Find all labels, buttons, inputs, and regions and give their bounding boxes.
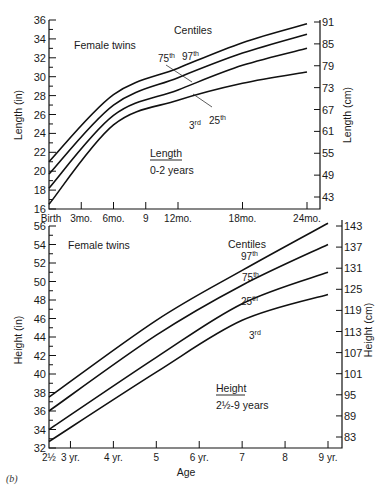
y-right-tick-label: 95 — [344, 389, 356, 401]
y-tick-label: 26 — [34, 109, 46, 121]
y-right-tick-label: 125 — [344, 283, 362, 295]
y-tick-label: 42 — [34, 350, 46, 362]
top-subtitle: Female twins — [74, 39, 136, 51]
y-right-tick-label: 55 — [322, 147, 334, 159]
x-tick-label: 2½ — [42, 452, 57, 463]
bottom-left-y-axis: 32343638404244464850525456 — [34, 220, 56, 454]
x-tick-label: 18mo. — [229, 213, 257, 224]
y-tick-label: 20 — [34, 165, 46, 177]
y-tick-label: 18 — [34, 184, 46, 196]
y-right-tick-label: 137 — [344, 241, 362, 253]
x-tick-label: 9 yr. — [319, 452, 338, 463]
bottom-y-axis-title-right: Height (cm) — [362, 303, 374, 357]
bottom-centile-curves — [49, 223, 328, 441]
y-tick-label: 34 — [34, 424, 46, 436]
y-right-tick-label: 91 — [322, 16, 334, 28]
growth-charts: 1618202224262830323436 43495561677379859… — [0, 0, 386, 493]
top-label-75: 75th — [158, 52, 175, 64]
y-tick-label: 38 — [34, 387, 46, 399]
y-right-tick-label: 73 — [322, 82, 334, 94]
x-tick-label: 8 — [282, 452, 288, 463]
bottom-x-axis: 2½3 yr.4 yr.56 yr.789 yr. — [42, 441, 337, 463]
x-tick-label: 9 — [143, 213, 149, 224]
y-tick-label: 46 — [34, 313, 46, 325]
y-right-tick-label: 107 — [344, 347, 362, 359]
y-right-tick-label: 67 — [322, 104, 334, 116]
x-tick-label: 6mo. — [102, 213, 124, 224]
figure-label: (b) — [6, 473, 18, 484]
bottom-y-axis-title: Height (in) — [12, 316, 24, 364]
y-tick-label: 50 — [34, 276, 46, 288]
bottom-legend-title: Centiles — [228, 238, 266, 250]
bottom-label-3: 3rd — [249, 329, 261, 341]
y-right-tick-label: 101 — [344, 368, 362, 380]
bottom-subtitle: Female twins — [68, 239, 130, 251]
y-right-tick-label: 61 — [322, 125, 334, 137]
y-right-tick-label: 131 — [344, 262, 362, 274]
y-tick-label: 52 — [34, 257, 46, 269]
top-right-y-axis: 434955616773798591 — [314, 16, 334, 203]
y-right-tick-label: 143 — [344, 220, 362, 232]
y-tick-label: 28 — [34, 90, 46, 102]
y-right-tick-label: 85 — [322, 38, 334, 50]
x-tick-label: 4 yr. — [104, 452, 123, 463]
y-tick-label: 24 — [34, 127, 46, 139]
top-label-25-leader — [193, 94, 212, 107]
top-x-axis: Birth3mo.6mo.912mo.18mo.24mo. — [41, 202, 321, 224]
y-tick-label: 56 — [34, 220, 46, 232]
x-tick-label: 5 — [154, 452, 160, 463]
bottom-right-y-axis: 838995101107113119125131137143 — [336, 220, 362, 443]
x-tick-label: 12mo. — [164, 213, 192, 224]
top-y-axis-title-right: Length (cm) — [341, 87, 353, 143]
y-tick-label: 34 — [34, 33, 46, 45]
height-chart: 32343638404244464850525456 8389951011071… — [12, 220, 374, 478]
y-tick-label: 30 — [34, 71, 46, 83]
top-legend-title: Centiles — [174, 24, 212, 36]
y-right-tick-label: 49 — [322, 169, 334, 181]
bottom-label-25: 25th — [241, 295, 258, 307]
top-note-title: Length — [150, 147, 182, 159]
y-right-tick-label: 113 — [344, 326, 362, 338]
y-right-tick-label: 89 — [344, 410, 356, 422]
y-tick-label: 40 — [34, 368, 46, 380]
x-tick-label: 24mo. — [293, 213, 321, 224]
bottom-label-97: 97th — [241, 250, 258, 262]
length-chart: 1618202224262830323436 43495561677379859… — [12, 14, 353, 224]
top-y-axis-title: Length (in) — [12, 90, 24, 140]
bottom-x-axis-title: Age — [177, 466, 196, 478]
top-label-25: 25th — [209, 114, 226, 126]
centile-curve-75th — [49, 245, 328, 412]
y-right-tick-label: 79 — [322, 60, 334, 72]
y-tick-label: 36 — [34, 14, 46, 26]
top-note-range: 0-2 years — [150, 164, 194, 176]
y-tick-label: 22 — [34, 146, 46, 158]
y-right-tick-label: 119 — [344, 304, 362, 316]
centile-curve-3rd — [49, 294, 328, 441]
y-tick-label: 54 — [34, 239, 46, 251]
x-tick-label: 7 — [239, 452, 245, 463]
x-tick-label: 3 yr. — [61, 452, 80, 463]
y-tick-label: 48 — [34, 294, 46, 306]
top-label-3: 3rd — [189, 119, 201, 131]
bottom-label-75: 75th — [242, 271, 259, 283]
y-tick-label: 36 — [34, 405, 46, 417]
x-tick-label: 6 yr. — [190, 452, 209, 463]
bottom-note-range: 2½-9 years — [216, 399, 269, 411]
y-right-tick-label: 83 — [344, 431, 356, 443]
x-tick-label: 3mo. — [70, 213, 92, 224]
centile-curve-3rd — [49, 72, 307, 204]
y-tick-label: 44 — [34, 331, 46, 343]
bottom-note-title: Height — [216, 382, 246, 394]
y-tick-label: 32 — [34, 52, 46, 64]
y-right-tick-label: 43 — [322, 191, 334, 203]
